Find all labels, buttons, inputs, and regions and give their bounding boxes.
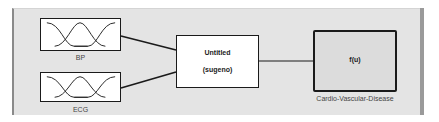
input-label-ecg: ECG [40,106,121,113]
fis-title: Untitled [177,49,258,56]
fis-block[interactable]: Untitled (sugeno) [176,35,259,88]
input-block-bp[interactable] [40,18,121,51]
fis-type: (sugeno) [177,66,258,73]
canvas-right-border [420,8,424,115]
output-function-block[interactable]: f(u) [313,30,397,92]
input-label-bp: BP [40,54,121,61]
membership-functions-icon [41,19,120,50]
input-block-ecg[interactable] [40,72,121,102]
output-label: Cardio-Vascular-Disease [300,95,410,102]
membership-functions-icon [41,73,120,101]
output-expression: f(u) [315,56,395,63]
